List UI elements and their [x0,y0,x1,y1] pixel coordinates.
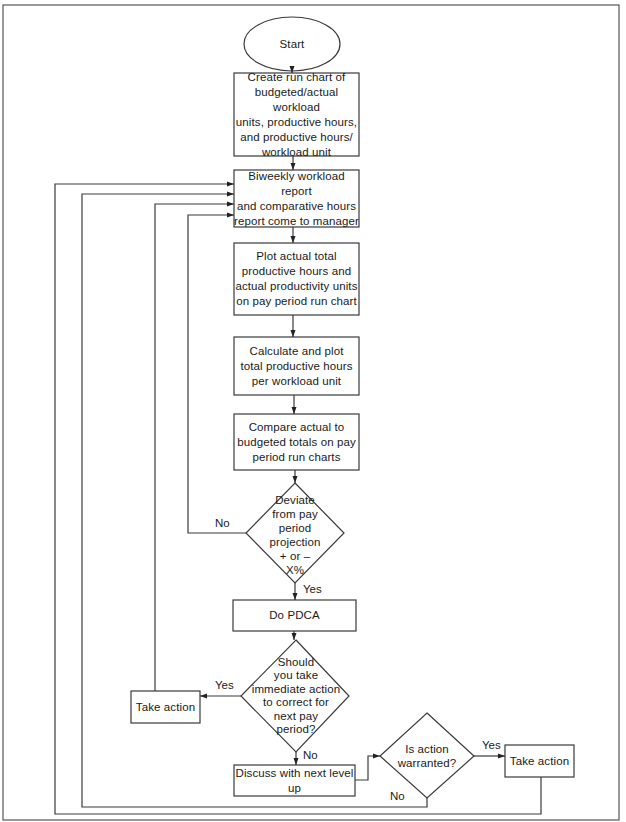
do-pdca-label: Do PDCA [233,600,356,631]
discuss-next-level-label: Discuss with next level up [234,765,355,796]
create-chart-label: Create run chart of budgeted/actual work… [234,73,359,156]
warranted-no-label: No [390,790,405,802]
immediate-no-label: No [303,749,318,761]
take-action-right-label: Take action [505,745,574,777]
immediate-action-decision-label: Should you take immediate action to corr… [248,650,344,742]
biweekly-report-label: Biweekly workload report and comparative… [234,170,359,227]
compare-actual-label: Compare actual to budgeted totals on pay… [234,414,359,470]
deviate-no-label: No [215,517,230,529]
deviate-decision-label: Deviate from pay period projection + or … [255,495,335,575]
immediate-yes-label: Yes [215,679,234,691]
deviate-yes-label: Yes [303,583,322,595]
calculate-plot-label: Calculate and plot total productive hour… [234,337,359,395]
warranted-yes-label: Yes [482,739,501,751]
take-action-left-label: Take action [131,691,200,723]
action-warranted-decision-label: Is action warranted? [387,735,467,777]
start-label: Start [244,17,340,71]
plot-actual-label: Plot actual total productive hours and a… [234,243,359,315]
